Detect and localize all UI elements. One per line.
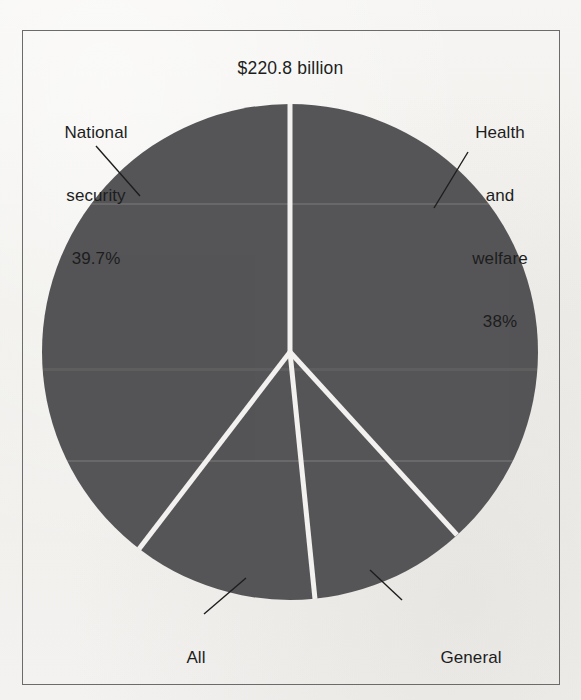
slice-label-health-welfare-line3: welfare xyxy=(444,248,556,269)
slice-label-all-other-line1: All xyxy=(136,647,256,668)
slice-label-health-welfare: Health and welfare 38% xyxy=(444,80,556,374)
slice-label-national-security-line2: security xyxy=(36,185,156,206)
slice-label-national-security-value: 39.7% xyxy=(36,248,156,269)
slice-label-national-security: National security 39.7% xyxy=(36,80,156,311)
slice-label-national-security-line1: National xyxy=(36,122,156,143)
figure-page: $220.8 billion National security 39.7% H… xyxy=(0,0,581,700)
slice-label-all-other: All other 12.0% xyxy=(136,605,256,700)
slice-label-general-government: General government 10.2% xyxy=(390,605,552,700)
slice-label-health-welfare-value: 38% xyxy=(444,311,556,332)
chart-title: $220.8 billion xyxy=(0,58,581,79)
slice-label-general-government-line1: General xyxy=(390,647,552,668)
slice-label-health-welfare-line1: Health xyxy=(444,122,556,143)
slice-label-health-welfare-line2: and xyxy=(444,185,556,206)
